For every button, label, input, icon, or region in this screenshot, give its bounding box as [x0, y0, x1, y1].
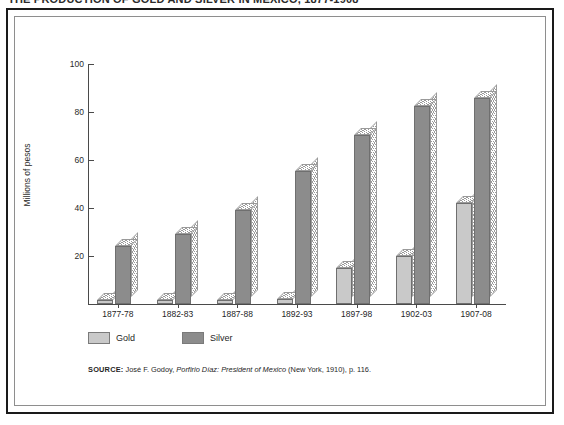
y-axis-tick	[88, 256, 94, 257]
y-axis-tick-label: 80	[52, 108, 84, 116]
bar-front-face	[295, 171, 311, 304]
bar-gold-1907-08	[456, 196, 472, 304]
bar-chart-plot: Millions of pesos 204060801001877-781882…	[0, 0, 564, 425]
legend-swatch-gold	[88, 332, 110, 344]
bar-side-face	[490, 84, 497, 297]
x-axis-tick-label: 1902-03	[386, 309, 446, 319]
x-axis-tick-label: 1897-98	[327, 309, 387, 319]
bar-front-face	[175, 234, 191, 304]
bar-side-face	[430, 92, 437, 297]
figure-page: THE PRODUCTION OF GOLD AND SILVER IN MEX…	[0, 0, 564, 425]
x-axis-tick	[237, 304, 238, 308]
bar-gold-1902-03	[396, 249, 412, 304]
y-axis-tick-value: 40	[58, 204, 84, 212]
bar-front-face	[396, 256, 412, 304]
bar-gold-1892-93	[277, 292, 293, 304]
x-axis-tick	[416, 304, 417, 308]
bar-side-face	[370, 121, 377, 297]
bar-front-face	[217, 300, 233, 304]
source-publication: (New York, 1910), p. 116.	[288, 365, 371, 374]
bar-silver-1887-88	[235, 203, 251, 304]
bar-front-face	[97, 300, 113, 304]
bar-gold-1877-78	[97, 293, 113, 304]
bar-front-face	[456, 203, 472, 304]
legend-label-silver: Silver	[210, 333, 233, 343]
bar-silver-1877-78	[115, 239, 131, 304]
x-axis-tick	[118, 304, 119, 308]
y-axis-tick-value: 80	[58, 108, 84, 116]
y-axis-tick-label: 40	[52, 204, 84, 212]
y-axis-tick	[88, 208, 94, 209]
bar-front-face	[474, 98, 490, 304]
bar-front-face	[157, 300, 173, 304]
y-axis-tick-label: 100	[52, 60, 84, 68]
x-axis-tick-label: 1892-93	[267, 309, 327, 319]
y-axis-tick-label: 20	[52, 252, 84, 260]
bar-front-face	[354, 135, 370, 304]
source-label: SOURCE:	[88, 365, 123, 374]
y-axis-tick-value: 100	[58, 60, 84, 68]
bar-silver-1902-03	[414, 99, 430, 304]
x-axis-tick	[178, 304, 179, 308]
bar-side-face	[311, 157, 318, 297]
bar-front-face	[277, 299, 293, 304]
bar-front-face	[115, 246, 131, 304]
y-axis-tick-value: 20	[58, 252, 84, 260]
bar-silver-1897-98	[354, 128, 370, 304]
bar-front-face	[414, 106, 430, 304]
bar-silver-1892-93	[295, 164, 311, 304]
x-axis-tick-label: 1887-88	[207, 309, 267, 319]
x-axis-tick-label: 1877-78	[88, 309, 148, 319]
bar-silver-1907-08	[474, 91, 490, 304]
source-work-title: Porfirio Díaz: President of Mexico	[176, 365, 286, 374]
bar-gold-1897-98	[336, 261, 352, 304]
bar-front-face	[336, 268, 352, 304]
bar-side-face	[251, 196, 258, 297]
source-note: SOURCE: José F. Godoy, Porfirio Díaz: Pr…	[88, 365, 508, 375]
legend-label-gold: Gold	[116, 333, 135, 343]
y-axis-line	[88, 64, 89, 305]
y-axis-tick	[88, 112, 94, 113]
x-axis-tick	[476, 304, 477, 308]
x-axis-tick	[357, 304, 358, 308]
x-axis-tick-label: 1882-83	[148, 309, 208, 319]
bar-gold-1887-88	[217, 293, 233, 304]
source-author: José F. Godoy,	[126, 365, 175, 374]
bar-gold-1882-83	[157, 293, 173, 304]
y-axis-tick-label: 60	[52, 156, 84, 164]
y-axis-tick-value: 60	[58, 156, 84, 164]
x-axis-tick	[297, 304, 298, 308]
y-axis-tick	[88, 64, 94, 65]
y-axis-title: Millions of pesos	[22, 115, 32, 235]
y-axis-tick	[88, 160, 94, 161]
bar-silver-1882-83	[175, 227, 191, 304]
x-axis-tick-label: 1907-08	[446, 309, 506, 319]
bar-front-face	[235, 210, 251, 304]
legend-swatch-silver	[182, 332, 204, 344]
